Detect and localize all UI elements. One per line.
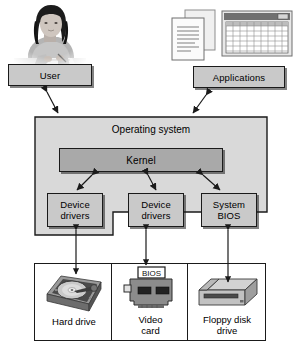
connector-layer [0, 0, 301, 347]
connector-kernel-drivers-middle [148, 175, 156, 190]
connector-kernel-drivers-left [77, 175, 92, 190]
diagram-canvas: User Applications Operating system Kerne… [0, 0, 301, 347]
connector-user-os [47, 92, 58, 113]
connector-applications-os [193, 95, 206, 113]
connector-kernel-bios [203, 175, 220, 190]
